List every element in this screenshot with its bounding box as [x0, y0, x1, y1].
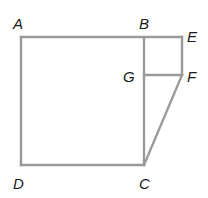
label-f: F	[187, 68, 197, 85]
label-b: B	[139, 15, 149, 32]
segments	[21, 37, 182, 165]
label-c: C	[139, 175, 150, 192]
geometry-diagram: A B E G F D C	[0, 0, 208, 198]
label-g: G	[123, 68, 135, 85]
segment-fc	[144, 75, 182, 165]
label-a: A	[12, 15, 23, 32]
label-d: D	[13, 175, 24, 192]
label-e: E	[187, 28, 198, 45]
